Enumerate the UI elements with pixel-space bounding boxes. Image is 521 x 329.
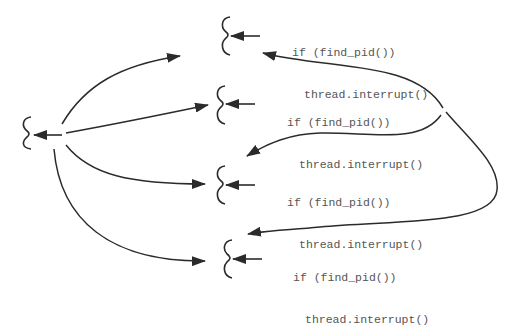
action-text: thread.interrupt() xyxy=(293,313,429,327)
condition-text: if (find_pid()) xyxy=(292,46,428,60)
source-thread xyxy=(23,117,62,149)
thread-squiggle-icon xyxy=(222,17,230,55)
code-label-thread-4: if (find_pid()) thread.interrupt() xyxy=(293,243,429,329)
spawn-arrows xyxy=(54,56,208,261)
thread-squiggle-icon xyxy=(23,117,31,149)
target-thread-1 xyxy=(222,17,260,55)
target-thread-3 xyxy=(217,166,255,204)
spawn-arrow-3 xyxy=(66,145,205,184)
thread-squiggle-icon xyxy=(217,166,225,204)
spawn-arrow-4 xyxy=(54,149,205,261)
condition-text: if (find_pid()) xyxy=(287,196,423,210)
condition-text: if (find_pid()) xyxy=(287,116,423,130)
condition-text: if (find_pid()) xyxy=(293,271,429,285)
thread-squiggle-icon xyxy=(224,240,232,278)
target-thread-4 xyxy=(224,240,262,278)
spawn-arrow-2 xyxy=(66,105,208,133)
thread-squiggle-icon xyxy=(217,86,225,124)
target-thread-2 xyxy=(217,86,255,124)
